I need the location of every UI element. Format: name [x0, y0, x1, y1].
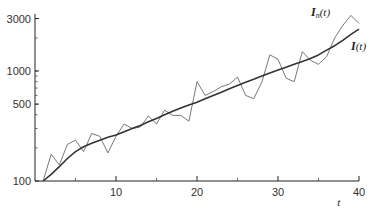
line-chart: 1005001000300010203040t In(t)I(t)	[0, 0, 379, 209]
y-tick-label: 1000	[7, 65, 31, 77]
series-line-raw	[43, 15, 359, 181]
series-label-I: I(t)	[350, 39, 366, 53]
x-axis-label: t	[337, 196, 341, 208]
y-tick-label: 3000	[7, 13, 31, 25]
series-lines	[43, 15, 359, 181]
axes: 1005001000300010203040t	[7, 13, 366, 208]
y-tick-label: 500	[13, 98, 31, 110]
y-tick-label: 100	[13, 175, 31, 187]
x-tick-label: 20	[191, 186, 203, 198]
series-line-trend	[43, 29, 359, 181]
x-tick-label: 10	[110, 186, 122, 198]
x-tick-label: 40	[353, 186, 365, 198]
series-label-In: In(t)	[310, 5, 330, 20]
x-tick-label: 30	[272, 186, 284, 198]
